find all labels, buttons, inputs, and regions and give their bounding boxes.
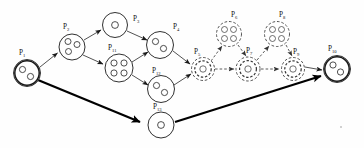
edge-p2-p3 — [84, 30, 101, 40]
token — [65, 39, 71, 45]
edge-p4-p5 — [173, 51, 190, 64]
place-label-p3: P3 — [133, 15, 140, 24]
edge-p1-p2 — [40, 53, 58, 67]
place-label-p6: P6 — [231, 11, 238, 20]
place-p6[interactable]: P6 — [217, 11, 242, 47]
token — [121, 70, 127, 76]
place-p10[interactable]: P10 — [324, 45, 351, 83]
token — [231, 27, 237, 33]
place-label-p7: P7 — [246, 47, 253, 56]
edge-p2-p11 — [83, 55, 103, 64]
place-label-p11: P11 — [108, 44, 117, 53]
token — [160, 45, 166, 51]
token — [200, 66, 206, 72]
place-p13[interactable]: P13 — [148, 103, 174, 138]
place-p12[interactable]: P12 — [148, 67, 175, 103]
place-p9[interactable]: P9 — [282, 48, 305, 81]
edge-p9-p10 — [305, 67, 322, 70]
edge-p13-p10 — [175, 76, 321, 122]
token — [231, 36, 237, 42]
edge-p11-p4 — [132, 52, 148, 62]
place-label-p5: P5 — [194, 48, 201, 57]
edge-p3-p4 — [127, 31, 147, 40]
token — [337, 69, 343, 75]
place-label-p12: P12 — [152, 67, 161, 76]
petri-net-diagram: P1 P2 P3 P4 — [0, 0, 364, 148]
edge-p1-p13 — [38, 80, 140, 122]
edge-p7-p8 — [257, 46, 269, 60]
place-label-p13: P13 — [153, 103, 162, 112]
token — [111, 70, 117, 76]
place-p11[interactable]: P11 — [105, 44, 133, 82]
token — [222, 27, 228, 33]
token — [112, 22, 119, 29]
place-label-p2: P2 — [63, 23, 70, 32]
token — [152, 38, 158, 44]
place-label-p9: P9 — [293, 48, 300, 57]
edge-p11-p12 — [132, 75, 148, 85]
token — [66, 49, 72, 55]
place-label-p4: P4 — [173, 23, 180, 32]
place-p8[interactable]: P8 — [265, 11, 290, 47]
token — [330, 62, 336, 68]
token — [121, 60, 127, 66]
edge-p5-p6 — [211, 46, 222, 61]
token — [111, 60, 117, 66]
place-p3[interactable]: P3 — [103, 13, 141, 38]
petri-net-canvas: P1 P2 P3 P4 — [0, 0, 364, 148]
token — [279, 36, 285, 42]
edge-p6-p7 — [238, 45, 246, 56]
place-p2[interactable]: P2 — [59, 23, 85, 60]
token — [222, 36, 228, 42]
token — [27, 73, 33, 79]
token — [158, 122, 165, 129]
place-label-p8: P8 — [279, 11, 286, 20]
edge-p8-p9 — [286, 45, 292, 56]
place-p4[interactable]: P4 — [147, 23, 181, 59]
place-p5[interactable]: P5 — [192, 48, 215, 81]
token — [270, 36, 276, 42]
token — [74, 42, 80, 48]
edge-p12-p5 — [174, 74, 191, 85]
token — [270, 27, 276, 33]
token — [279, 27, 285, 33]
place-p7[interactable]: P7 — [236, 47, 260, 81]
token — [245, 66, 251, 72]
token — [153, 82, 159, 88]
token — [161, 89, 167, 95]
place-p1[interactable]: P1 — [14, 49, 41, 87]
token — [290, 66, 296, 72]
place-label-p10: P10 — [328, 45, 337, 54]
token — [19, 66, 25, 72]
scan-speck — [340, 126, 342, 128]
place-label-p1: P1 — [19, 49, 26, 58]
